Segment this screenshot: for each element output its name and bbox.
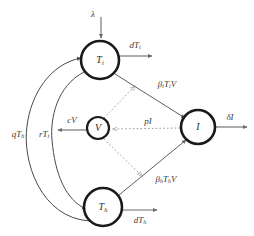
edge-conversion-qTh xyxy=(26,58,90,221)
edge-production-V xyxy=(113,128,180,129)
label-lambda: λ xyxy=(90,9,95,19)
label-beta-h-Th-V: βhThV xyxy=(155,174,179,185)
label-pI: pI xyxy=(143,116,153,126)
label-rTi: rTi xyxy=(39,129,50,140)
node-Ti[interactable]: Ti xyxy=(81,41,119,79)
label-dTi: dTi xyxy=(129,40,141,51)
label-deltaI: δI xyxy=(226,112,234,122)
node-Th[interactable]: Th xyxy=(84,188,122,226)
edge-virus-to-Th xyxy=(104,139,142,176)
edge-virus-to-Ti xyxy=(104,86,135,118)
label-beta-i-Ti-V: βiTiV xyxy=(157,79,178,90)
node-Th-subscript: h xyxy=(104,206,107,213)
label-dTh: dTh xyxy=(134,215,147,226)
edge-infection-Th xyxy=(119,140,186,195)
node-V[interactable]: V xyxy=(87,117,109,139)
compartment-model-diagram: Ti Th V I λ dTi dTh cV δI pI xyxy=(0,0,254,236)
node-Ti-subscript: i xyxy=(102,59,104,66)
label-qTh: qTh xyxy=(12,129,25,140)
edge-conversion-rTi xyxy=(52,72,86,209)
diagram-canvas: Ti Th V I λ dTi dTh cV δI pI xyxy=(0,0,254,236)
node-I[interactable]: I xyxy=(181,110,215,144)
node-I-label: I xyxy=(195,121,200,132)
label-cV: cV xyxy=(67,115,78,125)
